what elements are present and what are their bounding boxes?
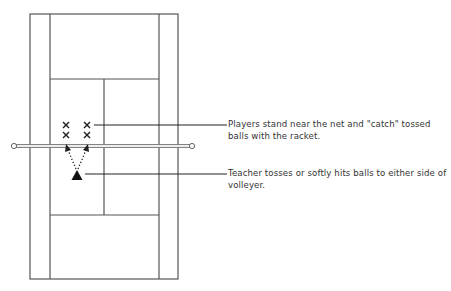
player-x-icon — [63, 122, 69, 128]
player-x-icon — [84, 122, 90, 128]
teacher-triangle-icon — [72, 170, 83, 180]
net — [11, 143, 194, 148]
net-post-right-icon — [189, 143, 194, 148]
toss-path-right — [78, 150, 86, 169]
players-callout-text: Players stand near the net and "catch" t… — [228, 118, 448, 142]
net-post-left-icon — [11, 143, 16, 148]
player-x-icon — [84, 132, 90, 138]
toss-paths — [68, 150, 86, 169]
players — [63, 122, 90, 138]
tennis-court-diagram — [0, 0, 451, 291]
net-band — [16, 145, 190, 148]
toss-path-left — [68, 150, 76, 169]
callout-leaders — [85, 125, 227, 174]
player-x-icon — [63, 132, 69, 138]
teacher-callout-text: Teacher tosses or softly hits balls to e… — [228, 167, 448, 191]
